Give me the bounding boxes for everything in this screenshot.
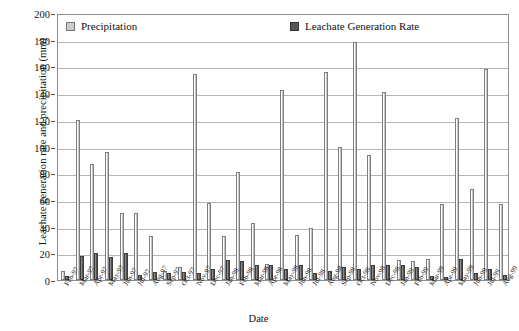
bar-group	[189, 13, 204, 280]
x-axis-title: Date	[0, 313, 517, 324]
bar-group	[145, 13, 160, 280]
y-axis-tick-label: 80	[40, 169, 51, 180]
legend-swatch-leachate-icon	[290, 22, 299, 31]
y-axis-tick-label: 160	[34, 62, 50, 73]
bar-precipitation	[382, 92, 386, 280]
x-axis-tick-labels: Feb-97Mar-97Apr-97May-97Jun-97Jul-97Aug-…	[0, 283, 517, 313]
y-axis-tick-mark	[51, 14, 55, 15]
y-axis-tick-mark	[51, 94, 55, 95]
y-axis-tick-mark	[51, 201, 55, 202]
bar-group	[233, 13, 248, 280]
y-axis-tick-mark	[51, 67, 55, 68]
bar-group	[481, 13, 496, 280]
y-axis-tick-mark	[51, 228, 55, 229]
bar-group	[116, 13, 131, 280]
bar-series-layer	[58, 15, 508, 280]
legend-item-precipitation: Precipitation	[66, 20, 137, 32]
bar-group	[291, 13, 306, 280]
bar-group	[87, 13, 102, 280]
bar-precipitation	[484, 69, 488, 280]
bar-group	[175, 13, 190, 280]
bar-group	[408, 13, 423, 280]
y-axis-tick-label: 180	[34, 35, 50, 46]
y-axis-tick-label: 20	[40, 249, 51, 260]
y-axis-tick-label: 120	[34, 115, 50, 126]
legend-label-leachate: Leachate Generation Rate	[305, 20, 419, 32]
legend-label-precipitation: Precipitation	[81, 20, 137, 32]
bar-precipitation	[455, 118, 459, 280]
y-axis-tick-label: 40	[40, 222, 51, 233]
plot-area	[57, 14, 509, 281]
bar-group	[423, 13, 438, 280]
bar-group	[262, 13, 277, 280]
y-axis-tick-label: 100	[34, 142, 50, 153]
bar-group	[277, 13, 292, 280]
y-axis-ticks: 020406080100120140160180200	[0, 14, 55, 281]
bar-group	[364, 13, 379, 280]
bar-group	[350, 13, 365, 280]
y-axis-tick-mark	[51, 254, 55, 255]
y-axis-tick-mark	[51, 281, 55, 282]
bar-precipitation	[338, 147, 342, 281]
bar-group	[204, 13, 219, 280]
y-axis-tick-mark	[51, 148, 55, 149]
bar-group	[320, 13, 335, 280]
y-axis-tick-mark	[51, 121, 55, 122]
bar-group	[248, 13, 263, 280]
bar-group	[102, 13, 117, 280]
bar-group	[393, 13, 408, 280]
bar-precipitation	[280, 90, 284, 280]
bar-group	[306, 13, 321, 280]
legend-swatch-precipitation-icon	[66, 22, 75, 31]
bar-precipitation	[499, 204, 503, 280]
bar-group	[466, 13, 481, 280]
y-axis-tick-label: 200	[34, 9, 50, 20]
bar-group	[452, 13, 467, 280]
bar-group	[160, 13, 175, 280]
y-axis-tick-label: 140	[34, 89, 50, 100]
bar-group	[73, 13, 88, 280]
bar-precipitation	[367, 155, 371, 280]
y-axis-tick-label: 60	[40, 195, 51, 206]
bar-precipitation	[193, 74, 197, 280]
bar-group	[218, 13, 233, 280]
bar-group	[495, 13, 510, 280]
y-axis-tick-mark	[51, 41, 55, 42]
y-axis-tick-mark	[51, 174, 55, 175]
bar-group	[437, 13, 452, 280]
bar-group	[131, 13, 146, 280]
bar-precipitation	[353, 42, 357, 280]
bar-group	[379, 13, 394, 280]
legend-item-leachate: Leachate Generation Rate	[290, 20, 419, 32]
bar-group	[335, 13, 350, 280]
bar-group	[58, 13, 73, 280]
bar-precipitation	[324, 72, 328, 280]
